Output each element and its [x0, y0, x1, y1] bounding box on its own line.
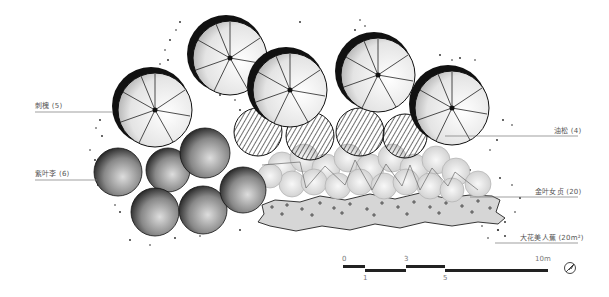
- label-pinus: 油松 (4): [554, 125, 581, 135]
- scale-tick-1: 1: [363, 274, 367, 282]
- scale-tick-5: 5: [443, 274, 447, 282]
- north-arrow-icon: [565, 263, 576, 274]
- scale-bar: [343, 265, 548, 272]
- scale-tick-3: 3: [404, 255, 408, 263]
- label-prunus: 紫叶李 (6): [35, 168, 70, 178]
- planting-plan: [0, 0, 609, 297]
- label-ligustrum: 金叶女贞 (20): [535, 186, 581, 196]
- scale-tick-10m: 10m: [535, 255, 551, 263]
- label-robinia: 刺槐 (5): [35, 100, 62, 110]
- label-canna: 大花美人蕉 (20m²): [520, 232, 584, 242]
- scale-tick-0: 0: [342, 255, 346, 263]
